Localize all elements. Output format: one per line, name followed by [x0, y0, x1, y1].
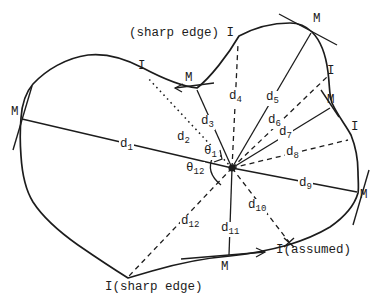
top-sharp-edge-note: (sharp edge) I	[129, 27, 234, 40]
i-marker-top-left: I	[138, 60, 146, 73]
m-marker-top-right: M	[313, 13, 321, 26]
centroid-dot	[228, 164, 235, 171]
d12-label: d12	[180, 215, 200, 230]
assumed-note: I(assumed)	[276, 244, 351, 257]
theta12-label: θ12	[185, 162, 205, 177]
theta1-label: θ1	[203, 145, 218, 160]
d1-label: d1	[119, 138, 134, 153]
d4-label: d4	[228, 90, 243, 105]
shape-boundary-diagram: d1 d2 d3 d4 d5 d6 d7 d8 d9 d10 d11 d12 θ…	[0, 0, 381, 303]
d3-label: d3	[200, 115, 215, 130]
m-marker-left: M	[11, 106, 19, 119]
blob-outline	[20, 23, 358, 278]
i-marker-right-lower: I	[351, 121, 359, 134]
d5-label: d5	[265, 91, 280, 106]
i-marker-right-upper: I	[327, 65, 335, 78]
m-marker-bottom: M	[221, 261, 229, 274]
m-marker-top-dip: M	[185, 72, 193, 85]
d8-label: d8	[285, 146, 300, 161]
d10-label: d10	[247, 199, 267, 214]
m-marker-right-upper: M	[327, 94, 335, 107]
d4-line	[232, 44, 238, 168]
d11-label: d11	[220, 222, 240, 237]
d9-label: d9	[298, 177, 313, 192]
bottom-sharp-edge-note: I(sharp edge)	[105, 281, 203, 294]
tangent-bottom	[181, 252, 265, 259]
d9-line	[232, 168, 357, 192]
d7-label: d7	[278, 126, 293, 141]
d2-label: d2	[176, 131, 191, 146]
tangent-top-right	[279, 14, 337, 45]
m-marker-right: M	[360, 189, 368, 202]
d11-line	[229, 168, 232, 255]
diagram-canvas	[0, 0, 381, 303]
d2-line	[147, 77, 232, 168]
